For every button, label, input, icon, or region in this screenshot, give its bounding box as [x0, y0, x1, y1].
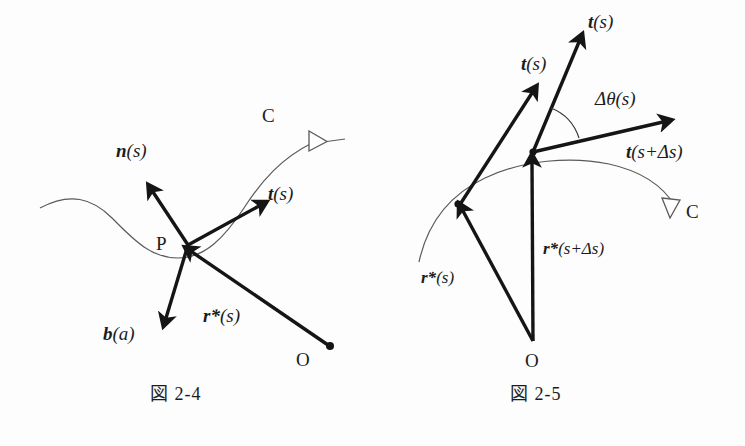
- figure-page: C n(s) t(s) b(a) r*(s) O: [0, 0, 745, 446]
- position-vector-label-symbol: r*: [203, 305, 220, 326]
- tangent-vector-arrow: [188, 206, 259, 245]
- curve-label-c: C: [686, 201, 699, 222]
- position-vector-s-arrow: [463, 211, 533, 341]
- curve-point-s-dot: [454, 200, 461, 207]
- tangent-vector-translated-label: t(s): [521, 53, 546, 75]
- position-vector-s-plus-arrow: [532, 163, 533, 341]
- position-vector-s-plus-label-arg: (s+Δs): [558, 239, 604, 258]
- normal-vector-label-arg: (s): [127, 140, 147, 162]
- tangent-vector-at-s-label-arg: (s): [593, 11, 613, 33]
- figure-2-4-canvas: C n(s) t(s) b(a) r*(s) O: [0, 0, 373, 446]
- figure-2-5: C t(s) t(s) t(s+Δs) Δθ(s) r*(s): [373, 0, 745, 446]
- normal-vector-label: n(s): [116, 140, 147, 162]
- curve-direction-arrowhead: [309, 131, 327, 151]
- binormal-vector-label-symbol: b: [103, 323, 113, 344]
- curve-point-label-p: P: [156, 233, 167, 254]
- tangent-vector-label: t(s): [268, 183, 293, 205]
- origin-point-label: O: [525, 350, 539, 371]
- tangent-vector-at-s-plus-label-arg: (s+Δs): [631, 141, 682, 163]
- angle-arc: [551, 108, 579, 138]
- figure-2-5-caption: 図 2-5: [510, 384, 562, 404]
- position-vector-s-label-symbol: r*: [421, 268, 437, 287]
- curve-tail-segment: [327, 139, 345, 142]
- curve-direction-arrowhead: [662, 198, 680, 218]
- tangent-vector-translated-label-arg: (s): [526, 53, 546, 75]
- curve-label-c: C: [262, 105, 275, 126]
- tangent-vector-at-s-plus-label: t(s+Δs): [626, 141, 683, 163]
- curve-point-s-plus-dot: [529, 148, 536, 155]
- binormal-vector-label-arg: (a): [113, 323, 135, 345]
- figure-2-4-caption: 図 2-4: [150, 384, 202, 404]
- binormal-vector-label: b(a): [103, 323, 135, 345]
- position-vector-label: r*(s): [203, 305, 240, 327]
- tangent-vector-at-s-label: t(s): [588, 11, 613, 33]
- origin-point-label: O: [296, 349, 310, 370]
- position-vector-s-plus-label: r*(s+Δs): [543, 239, 604, 258]
- angle-label: Δθ(s): [594, 88, 636, 110]
- position-vector-label-arg: (s): [220, 305, 240, 327]
- tangent-vector-label-arg: (s): [273, 183, 293, 205]
- binormal-vector-arrow: [166, 245, 188, 318]
- tangent-vector-translated-arrow: [459, 93, 532, 206]
- position-vector-arrow: [192, 252, 328, 345]
- position-vector-s-label: r*(s): [421, 268, 454, 287]
- normal-vector-label-symbol: n: [116, 140, 127, 161]
- origin-point-dot: [326, 342, 334, 350]
- figure-2-5-canvas: C t(s) t(s) t(s+Δs) Δθ(s) r*(s): [373, 0, 745, 446]
- position-vector-s-label-arg: (s): [436, 268, 454, 287]
- figure-2-4: C n(s) t(s) b(a) r*(s) O: [0, 0, 373, 446]
- position-vector-s-plus-label-symbol: r*: [543, 239, 559, 258]
